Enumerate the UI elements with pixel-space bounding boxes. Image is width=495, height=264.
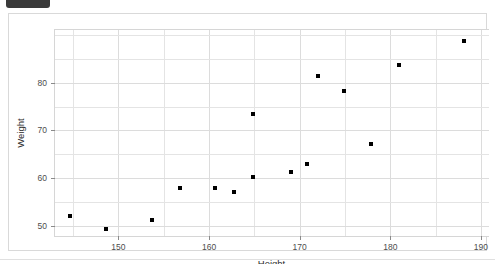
y-axis-tick [51,83,55,84]
x-axis-tick-label: 150 [111,242,125,252]
gridline-horizontal [55,226,489,227]
gridline-vertical [300,30,301,236]
x-axis-tick-label: 190 [474,242,488,252]
gridline-horizontal [55,83,489,84]
gridline-horizontal [55,35,489,36]
x-axis-tick-label: 170 [293,242,307,252]
scatter-point[interactable] [305,162,309,166]
gridline-horizontal [55,154,489,155]
y-axis-label: Weight [15,118,26,147]
plot-area: 15016017018019050607080 [55,30,489,236]
scatter-point[interactable] [68,214,72,218]
x-axis-tick-label: 160 [202,242,216,252]
scatter-plot-panel: 15016017018019050607080 [54,29,489,237]
scatter-point[interactable] [178,186,182,190]
scatter-point[interactable] [251,112,255,116]
y-axis-tick-label: 70 [38,125,47,135]
gridline-vertical [390,30,391,236]
gridline-vertical [164,30,165,236]
gridline-horizontal [55,178,489,179]
y-axis-tick-label: 60 [38,173,47,183]
x-axis-tick [390,236,391,240]
gridline-vertical [345,30,346,236]
scatter-point[interactable] [251,175,255,179]
gridline-vertical [73,30,74,236]
scatter-point[interactable] [213,186,217,190]
x-axis-tick [481,236,482,240]
x-axis-tick-label: 180 [383,242,397,252]
gridline-vertical [254,30,255,236]
y-axis-tick-label: 50 [38,221,47,231]
gridline-vertical [209,30,210,236]
gridline-vertical [436,30,437,236]
chart-card: 15016017018019050607080 Height Weight [8,13,487,251]
gridline-horizontal [55,107,489,108]
x-axis-tick [209,236,210,240]
gridline-horizontal [55,59,489,60]
scatter-point[interactable] [316,74,320,78]
gridline-horizontal [55,130,489,131]
scatter-point[interactable] [397,63,401,67]
gridline-horizontal [55,202,489,203]
y-axis-tick [51,178,55,179]
x-axis-tick [118,236,119,240]
y-axis-tick [51,130,55,131]
y-axis-tick [51,226,55,227]
scatter-point[interactable] [289,170,293,174]
scatter-point[interactable] [104,227,108,231]
scatter-point[interactable] [342,89,346,93]
gridline-vertical [118,30,119,236]
gridline-vertical [481,30,482,236]
bottom-divider [0,259,495,260]
top-toolbar-chip[interactable] [6,0,50,8]
scatter-point[interactable] [462,39,466,43]
x-axis-tick [300,236,301,240]
y-axis-tick-label: 80 [38,78,47,88]
scatter-point[interactable] [369,142,373,146]
scatter-point[interactable] [150,218,154,222]
scatter-point[interactable] [232,190,236,194]
screenshot-root: 15016017018019050607080 Height Weight [0,0,495,264]
